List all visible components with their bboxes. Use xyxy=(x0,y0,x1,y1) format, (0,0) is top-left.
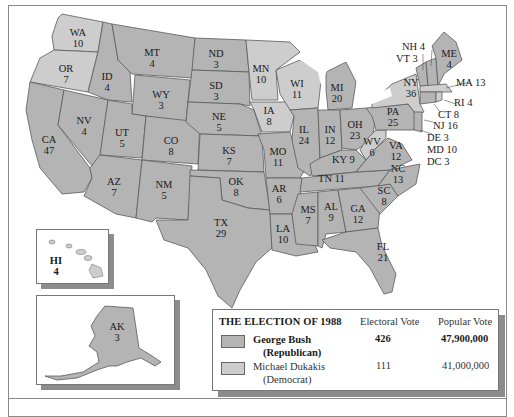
svg-text:DE 3: DE 3 xyxy=(427,132,449,143)
republican-swatch xyxy=(221,335,245,348)
candidate-bush: George Bush (Republican) xyxy=(253,333,321,359)
svg-text:NC13: NC13 xyxy=(391,163,406,185)
svg-text:VA12: VA12 xyxy=(389,140,403,162)
svg-text:DC 3: DC 3 xyxy=(427,156,449,167)
svg-text:CT 8: CT 8 xyxy=(438,109,459,120)
svg-text:NJ 16: NJ 16 xyxy=(433,120,458,131)
bush-popular-vote: 47,900,000 xyxy=(441,333,488,344)
candidate-party: (Democrat) xyxy=(253,373,325,386)
electoral-vote-header: Electoral Vote xyxy=(360,316,419,327)
candidate-name: Michael Dukakis xyxy=(253,361,325,372)
candidate-dukakis: Michael Dukakis (Democrat) xyxy=(253,360,325,386)
election-legend: THE ELECTION OF 1988 Electoral Vote Popu… xyxy=(212,309,499,391)
svg-text:FL21: FL21 xyxy=(377,241,389,263)
alaska-shape: AK3 xyxy=(37,296,174,384)
svg-text:RI 4: RI 4 xyxy=(454,97,473,108)
svg-text:NH 4: NH 4 xyxy=(402,41,426,52)
dukakis-electoral-vote: 111 xyxy=(376,360,391,371)
state-ri xyxy=(436,92,442,102)
svg-text:MD 10: MD 10 xyxy=(427,144,457,155)
popular-vote-header: Popular Vote xyxy=(438,316,492,327)
state-ct xyxy=(420,92,436,104)
svg-text:TN 11: TN 11 xyxy=(318,173,345,184)
candidate-name: George Bush xyxy=(253,334,311,345)
candidate-party: (Republican) xyxy=(253,346,321,359)
bush-electoral-vote: 426 xyxy=(375,333,391,344)
alaska-inset: AK3 xyxy=(36,295,175,385)
state-nj xyxy=(414,112,422,132)
dukakis-popular-vote: 41,000,000 xyxy=(442,360,489,371)
svg-text:VT 3: VT 3 xyxy=(396,53,418,64)
democrat-swatch xyxy=(221,362,245,375)
hawaii-inset: HI4 xyxy=(36,229,109,284)
svg-text:PA25: PA25 xyxy=(387,106,400,128)
svg-text:MA 13: MA 13 xyxy=(456,77,485,88)
hawaii-shape: HI4 xyxy=(37,230,108,283)
svg-text:KY 9: KY 9 xyxy=(332,154,355,165)
svg-text:IN12: IN12 xyxy=(324,124,335,146)
svg-text:MI20: MI20 xyxy=(331,82,344,104)
bottom-divider xyxy=(8,398,506,399)
svg-text:HI4: HI4 xyxy=(50,255,62,277)
svg-text:IL24: IL24 xyxy=(299,124,310,146)
legend-title: THE ELECTION OF 1988 xyxy=(219,316,342,327)
